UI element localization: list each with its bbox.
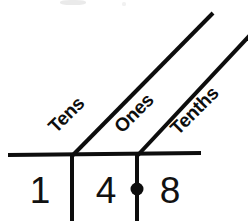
digit-tens: 1 bbox=[30, 170, 51, 211]
tenths-leader-line bbox=[137, 33, 248, 156]
digit-ones: 4 bbox=[96, 170, 117, 211]
baseline-horizontal-rule bbox=[8, 153, 201, 155]
digit-tenths: 8 bbox=[160, 170, 181, 211]
place-label-tenths: Tenths bbox=[166, 82, 223, 139]
place-label-tens: Tens bbox=[44, 92, 88, 136]
place-value-chart-canvas: Tens Ones Tenths 1 4 8 bbox=[0, 0, 248, 221]
place-value-chart-diagram: Tens Ones Tenths 1 4 8 bbox=[0, 0, 248, 221]
tens-leader-line bbox=[72, 13, 213, 156]
decimal-point-dot bbox=[131, 183, 144, 196]
